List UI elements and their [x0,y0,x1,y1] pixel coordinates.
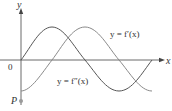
point-p-marker [19,99,23,103]
derivative-graphs-figure: y x 0 P y = f′(x) y = f″(x) [0,0,172,111]
label-f-double-prime: y = f″(x) [57,76,88,86]
label-f-prime: y = f′(x) [110,29,140,39]
x-axis-label: x [165,55,171,66]
y-axis-label: y [16,0,22,10]
x-axis-arrow-icon [159,58,165,62]
point-p-label: P [10,95,17,106]
origin-label: 0 [8,62,13,72]
